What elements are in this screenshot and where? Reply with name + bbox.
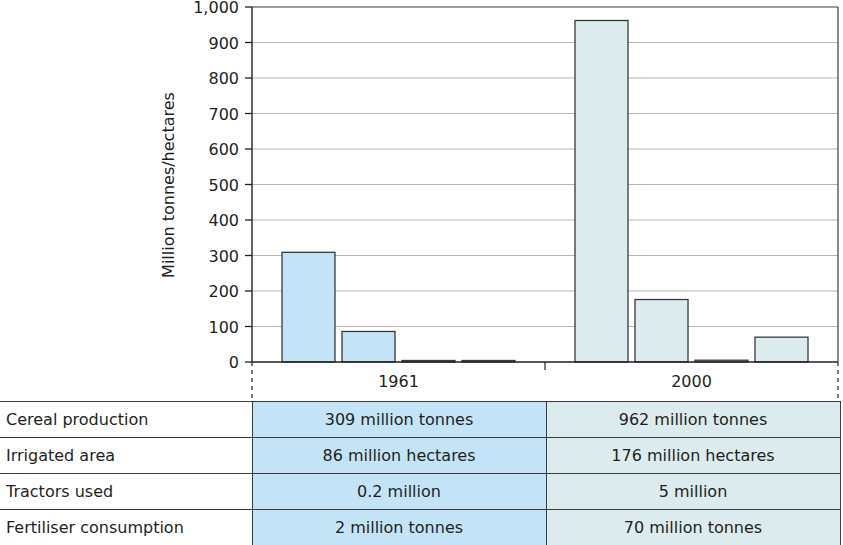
y-tick-label: 200 xyxy=(208,282,239,301)
bar-chart: 01002003004005006007008009001,000 196120… xyxy=(0,0,843,401)
y-tick-label: 900 xyxy=(208,34,239,53)
value-2000: 70 million tonnes xyxy=(546,510,840,545)
value-2000: 5 million xyxy=(546,474,840,510)
y-tick-label: 0 xyxy=(229,353,239,372)
value-1961: 2 million tonnes xyxy=(252,510,546,545)
value-2000: 962 million tonnes xyxy=(546,402,840,438)
bar-1961-irrigated-area xyxy=(342,331,395,362)
y-tick-label: 600 xyxy=(208,140,239,159)
y-tick-label: 500 xyxy=(208,176,239,195)
category-label: 1961 xyxy=(378,372,419,391)
y-tick-label: 800 xyxy=(208,69,239,88)
value-1961: 0.2 million xyxy=(252,474,546,510)
value-1961: 86 million hectares xyxy=(252,438,546,474)
y-axis-title: Million tonnes/hectares xyxy=(159,92,178,278)
table-row: Cereal production309 million tonnes962 m… xyxy=(0,402,840,438)
gridlines xyxy=(252,43,838,327)
category-labels: 19612000 xyxy=(378,372,712,391)
table-row: Irrigated area86 million hectares176 mil… xyxy=(0,438,840,474)
category-label: 2000 xyxy=(671,372,712,391)
row-label: Tractors used xyxy=(0,474,252,510)
row-label: Irrigated area xyxy=(0,438,252,474)
data-table: Cereal production309 million tonnes962 m… xyxy=(0,401,841,545)
bar-2000-cereal-production xyxy=(575,20,628,362)
table-row: Fertiliser consumption2 million tonnes70… xyxy=(0,510,840,545)
bar-2000-fertiliser-consumption xyxy=(755,337,808,362)
y-tick-label: 700 xyxy=(208,105,239,124)
table-row: Tractors used0.2 million5 million xyxy=(0,474,840,510)
bar-2000-irrigated-area xyxy=(635,300,688,362)
y-tick-labels: 01002003004005006007008009001,000 xyxy=(193,0,239,372)
bar-1961-cereal-production xyxy=(282,252,335,362)
bars xyxy=(282,20,808,362)
y-tick-label: 100 xyxy=(208,318,239,337)
row-label: Fertiliser consumption xyxy=(0,510,252,545)
y-tick-label: 300 xyxy=(208,247,239,266)
y-tick-label: 400 xyxy=(208,211,239,230)
row-label: Cereal production xyxy=(0,402,252,438)
value-1961: 309 million tonnes xyxy=(252,402,546,438)
y-tick-label: 1,000 xyxy=(193,0,239,17)
value-2000: 176 million hectares xyxy=(546,438,840,474)
